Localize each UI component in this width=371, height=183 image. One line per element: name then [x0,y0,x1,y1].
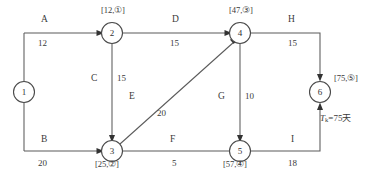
edge-H [251,33,324,82]
node-1[interactable]: 1 [14,82,35,103]
edge-duration-A: 12 [38,39,47,48]
event-label-node-4: [47,③] [229,6,253,15]
edge-label-G: G [218,92,225,102]
edge-C [109,44,115,143]
edge-label-E: E [129,92,135,102]
edge-I [251,103,324,152]
event-label-node-3: [25,②] [95,160,119,169]
event-label-node-2: [12,①] [101,6,125,15]
edge-label-I: I [291,135,294,145]
node-6[interactable]: 6 [310,82,331,103]
edge-duration-H: 15 [288,39,297,48]
edge-duration-E: 20 [157,109,166,118]
edge-label-F: F [170,135,175,145]
edge-B [24,148,104,154]
edge-label-A: A [41,15,48,25]
edge-label-B: B [41,135,47,145]
network-graph-canvas: 1 2 3 4 5 6 [0,0,371,183]
node-2[interactable]: 2 [102,23,123,44]
edge-duration-G: 10 [245,92,254,101]
event-label-node-5: [57,④] [223,160,247,169]
node-6-label: 6 [318,87,323,97]
node-5-label: 5 [238,146,243,156]
edge-label-H: H [288,15,295,25]
edge-duration-D: 15 [170,39,179,48]
node-2-label: 2 [110,28,115,38]
node-4[interactable]: 4 [230,23,251,44]
edge-G [237,44,243,143]
edge-label-D: D [172,15,179,25]
edge-duration-F: 5 [172,159,177,168]
network-diagram: 1 2 3 4 5 6 A 12 B 20 C 15 D 15 E [0,0,371,183]
node-3-label: 3 [110,146,115,156]
node-4-label: 4 [238,28,243,38]
event-label-node-6: [75,⑤] [334,74,358,83]
edge-duration-C: 15 [117,74,126,83]
edge-D [123,30,233,36]
project-duration-annotation: Tk=75天 [320,114,351,124]
edge-duration-I: 18 [288,159,297,168]
tk-value: =75天 [328,113,351,123]
edge-A [24,30,104,36]
edge-duration-B: 20 [38,159,47,168]
node-1-label: 1 [22,87,27,97]
edge-label-C: C [91,74,97,84]
